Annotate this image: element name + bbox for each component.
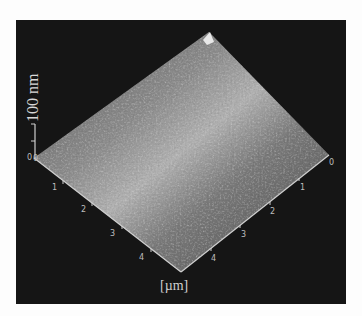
afm-surface-plot [0,0,362,316]
z-scale-label: 100 nm [18,40,48,130]
right-tick-1: 1 [300,183,305,192]
right-tick-2: 2 [270,207,275,216]
left-tick-2: 2 [81,205,86,214]
left-tick-3: 3 [110,229,115,238]
right-tick-4: 4 [211,254,216,263]
unit-label: [µm] [160,278,188,294]
left-tick-1: 1 [52,183,57,192]
right-tick-0: 0 [329,158,334,167]
right-tick-3: 3 [241,230,246,239]
surface-diamond [34,32,329,272]
left-tick-4: 4 [139,253,144,262]
z-axis-zero: 0 [27,153,32,162]
left-tick-0: 0 [33,154,38,163]
